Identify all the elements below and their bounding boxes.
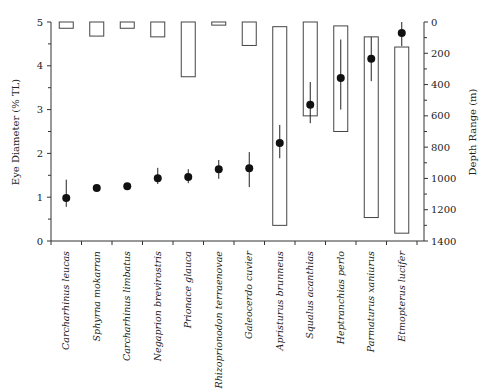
depth-range-bar bbox=[395, 47, 409, 233]
species-label: Heptranchias perlo bbox=[335, 251, 346, 345]
eye-diameter-point bbox=[245, 164, 253, 172]
right-axis-title: Depth Range (m) bbox=[467, 88, 478, 175]
eye-diameter-point bbox=[215, 165, 223, 173]
species-label: Parmaturus xaniurus bbox=[365, 251, 376, 353]
right-tick-label: 600 bbox=[431, 110, 450, 121]
depth-range-bar bbox=[120, 22, 134, 28]
species-label: Etmopterus lucifer bbox=[396, 250, 407, 343]
eye-diameter-point bbox=[184, 173, 192, 181]
left-tick-label: 1 bbox=[37, 192, 43, 203]
eye-diameter-point bbox=[154, 174, 162, 182]
species-label: Prionace glauca bbox=[182, 251, 193, 330]
left-tick-label: 0 bbox=[37, 236, 43, 247]
species-label: Rhizoprionodon terraenovae bbox=[213, 251, 224, 390]
eye-diameter-point bbox=[276, 139, 284, 147]
right-y-axis: 0200400600800100012001400 bbox=[424, 17, 456, 247]
species-label: Galeocerdo cuvier bbox=[243, 250, 254, 339]
species-label: Negaprion brevirostris bbox=[152, 251, 163, 362]
eye-diameter-point bbox=[62, 194, 70, 202]
species-label: Carcharhinus leucas bbox=[60, 251, 71, 350]
right-tick-label: 400 bbox=[431, 79, 450, 90]
depth-range-bar bbox=[242, 22, 256, 45]
right-tick-label: 800 bbox=[431, 142, 450, 153]
left-y-axis: 012345 bbox=[37, 17, 51, 247]
x-axis bbox=[51, 241, 424, 245]
eye-diameter-point bbox=[306, 101, 314, 109]
eye-diameter-point bbox=[93, 184, 101, 192]
eye-diameter-point bbox=[367, 55, 375, 63]
eye-diameter-point bbox=[123, 182, 131, 190]
species-label: Sphyrna mokarran bbox=[91, 251, 102, 341]
left-axis-title: Eye Diameter (% TL) bbox=[10, 79, 21, 185]
depth-range-bar bbox=[151, 22, 165, 37]
depth-range-bar bbox=[181, 22, 195, 77]
left-tick-label: 4 bbox=[37, 60, 43, 71]
left-tick-label: 5 bbox=[37, 17, 43, 28]
depth-range-bar bbox=[90, 22, 104, 36]
species-label: Carcharhinus limbatus bbox=[121, 251, 132, 361]
left-tick-label: 3 bbox=[37, 104, 43, 115]
chart: 012345 0200400600800100012001400 Carchar… bbox=[0, 0, 489, 390]
right-tick-label: 0 bbox=[431, 17, 437, 28]
eye-diameter-points bbox=[62, 22, 406, 207]
species-labels: Carcharhinus leucasSphyrna mokarranCarch… bbox=[60, 250, 407, 390]
depth-range-bars bbox=[59, 22, 409, 233]
right-tick-label: 1200 bbox=[431, 204, 456, 215]
depth-range-bar bbox=[212, 22, 226, 25]
eye-diameter-point bbox=[337, 74, 345, 82]
species-label: Apristurus brunneus bbox=[274, 251, 285, 352]
right-tick-label: 200 bbox=[431, 48, 450, 59]
species-label: Squalus acanthias bbox=[304, 251, 315, 339]
depth-range-bar bbox=[59, 22, 73, 28]
left-tick-label: 2 bbox=[37, 148, 43, 159]
right-tick-label: 1000 bbox=[431, 173, 456, 184]
right-tick-label: 1400 bbox=[431, 236, 456, 247]
eye-diameter-point bbox=[398, 29, 406, 37]
